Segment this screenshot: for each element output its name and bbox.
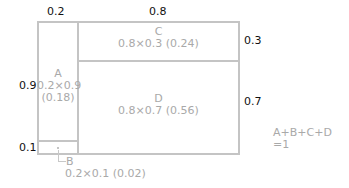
box-top-edge (37, 21, 240, 23)
region-b-dot (57, 147, 59, 149)
region-d-formula: 0.8×0.7 (0.56) (79, 105, 238, 117)
top-dimension-0.2: 0.2 (47, 6, 65, 18)
left-dimension-0.1: 0.1 (19, 142, 37, 154)
region-b-formula: 0.2×0.1 (0.02) (65, 168, 146, 180)
region-b-leader-horizontal (58, 161, 66, 162)
region-c-formula: 0.8×0.3 (0.24) (79, 38, 238, 50)
region-b-leader-vertical (58, 150, 59, 161)
right-dimension-0.7: 0.7 (244, 96, 262, 108)
divider-cd (77, 60, 240, 62)
region-c-label: C 0.8×0.3 (0.24) (79, 26, 238, 50)
sum-line-2: =1 (273, 139, 332, 151)
left-dimension-0.9: 0.9 (19, 80, 37, 92)
right-dimension-0.3: 0.3 (244, 35, 262, 47)
region-a-label: A 0.2×0.9 (0.18) (37, 68, 79, 104)
top-dimension-0.8: 0.8 (149, 6, 167, 18)
divider-ab (37, 140, 79, 142)
region-a-area: (0.18) (37, 92, 79, 104)
sum-annotation: A+B+C+D =1 (273, 127, 332, 151)
box-right-edge (238, 21, 240, 155)
region-d-label: D 0.8×0.7 (0.56) (79, 93, 238, 117)
